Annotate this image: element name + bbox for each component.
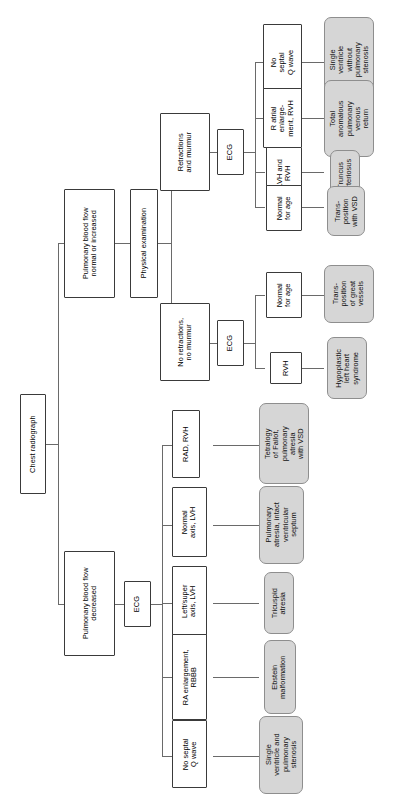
connector-upper-to-exam bbox=[115, 243, 130, 244]
terminal-label: Hypoplastic left heart syndrome bbox=[335, 349, 360, 388]
node-pulmonary-blood-flow-decreased[interactable]: Pulmonary blood flow decreased bbox=[64, 551, 115, 656]
node-ecg-result-normal-for-age-1[interactable]: Normal for age bbox=[266, 185, 302, 231]
node-label: R atrial enlarge- ment, RVH bbox=[270, 100, 295, 136]
node-label: ECG bbox=[133, 596, 141, 612]
connector-ecg1-out bbox=[244, 152, 255, 153]
connector-res-u5-term bbox=[302, 295, 324, 296]
flowchart-canvas: Chest radiograph Pulmonary blood flow no… bbox=[0, 0, 399, 807]
terminal-label: Ebstein malformation bbox=[272, 655, 289, 698]
node-pulmonary-blood-flow-normal[interactable]: Pulmonary blood flow normal or increased bbox=[64, 189, 115, 298]
node-label: No retractions, no murmur bbox=[177, 318, 194, 367]
node-ecg-upper-1[interactable]: ECG bbox=[217, 129, 244, 175]
terminal-label: Total anomalous pulmonary venous return bbox=[328, 100, 369, 137]
connector-ecg3-r5 bbox=[162, 756, 172, 757]
connector-ecg2-r2 bbox=[255, 368, 265, 369]
node-label: Pulmonary blood flow decreased bbox=[81, 568, 98, 640]
node-chest-radiograph[interactable]: Chest radiograph bbox=[20, 394, 46, 494]
terminal-hypoplastic-left-heart-syndrome[interactable]: Hypoplastic left heart syndrome bbox=[327, 337, 367, 399]
terminal-tetralogy-of-fallot-pulmonary-atresia-with-vsd[interactable]: Tetralogy of Fallot, pulmonary atresia w… bbox=[259, 403, 309, 484]
node-label: Normal axis, LVH bbox=[181, 506, 198, 538]
connector-ecg2-spine bbox=[255, 295, 256, 368]
connector-exam-out bbox=[158, 243, 171, 244]
node-physical-examination[interactable]: Physical examination bbox=[130, 189, 158, 298]
connector-res-l2-term bbox=[213, 525, 259, 526]
terminal-label: Trans- position with VSD bbox=[334, 196, 359, 227]
terminal-pulmonary-atresia-intact-ventricular-septum[interactable]: Pulmonary atresia, intact ventricular se… bbox=[259, 486, 304, 564]
connector-res-u1-term bbox=[302, 62, 324, 63]
connector-ecg1-r4 bbox=[255, 207, 265, 208]
node-label: ECG bbox=[226, 144, 234, 160]
connector-ecg2-out bbox=[244, 343, 255, 344]
terminal-label: Tricuspid atresia bbox=[271, 588, 288, 618]
node-ecg-result-rvh[interactable]: RVH bbox=[270, 352, 302, 384]
connector-ecg2-r1 bbox=[255, 295, 265, 296]
node-label: No septal Q wave bbox=[181, 738, 198, 770]
node-label: Retractions and murmur bbox=[177, 132, 194, 172]
connector-ecg3-out bbox=[151, 604, 162, 605]
node-retractions-and-murmur[interactable]: Retractions and murmur bbox=[160, 113, 210, 191]
connector-res-u4-term bbox=[302, 207, 324, 208]
terminal-label: Pulmonary atresia, intact ventricular se… bbox=[265, 503, 298, 548]
connector-res-l3-term bbox=[213, 603, 259, 604]
node-label: Normal for age bbox=[276, 196, 293, 220]
node-ecg-result-rad-rvh[interactable]: RAD, RVH bbox=[172, 410, 200, 478]
terminal-ebstein-malformation[interactable]: Ebstein malformation bbox=[264, 640, 296, 714]
node-ecg-result-no-septal-q-wave-lower[interactable]: No septal Q wave bbox=[172, 720, 207, 788]
connector-ecg3-r3 bbox=[162, 603, 172, 604]
connector-res-l4-term bbox=[213, 677, 259, 678]
terminal-label: Single ventricle without pulmonary steno… bbox=[328, 43, 369, 78]
terminal-transposition-of-great-vessels[interactable]: Trans- position of great vessels bbox=[324, 265, 374, 323]
node-ecg-result-normal-axis-lvh[interactable]: Normal axis, LVH bbox=[172, 487, 207, 557]
terminal-label: Tetralogy of Fallot, pulmonary atresia w… bbox=[263, 426, 304, 461]
node-label: LVH and RVH bbox=[276, 159, 293, 188]
terminal-transposition-with-vsd[interactable]: Trans- position with VSD bbox=[327, 186, 365, 236]
node-label: Chest radiograph bbox=[29, 415, 37, 473]
terminal-tricuspid-atresia[interactable]: Tricuspid atresia bbox=[264, 572, 294, 634]
node-ecg-result-left-super-axis-lvh[interactable]: Left/super axis, LVH bbox=[172, 566, 207, 636]
node-ecg-lower[interactable]: ECG bbox=[124, 581, 151, 627]
node-label: Left/super axis, LVH bbox=[181, 584, 198, 617]
connector-ecg1-spine bbox=[255, 62, 256, 207]
node-ecg-result-ra-enlargement-rbbb[interactable]: RA enlargement, RBBB bbox=[172, 634, 207, 720]
connector-res-u3-term bbox=[302, 172, 324, 173]
connector-ecg3-r4 bbox=[162, 677, 172, 678]
connector-ecg3-r2 bbox=[162, 525, 172, 526]
connector-main-spine bbox=[58, 243, 59, 604]
node-ecg-result-normal-for-age-2[interactable]: Normal for age bbox=[266, 272, 302, 318]
connector-ecg1-r3 bbox=[255, 172, 265, 173]
connector-ecg3-r1 bbox=[162, 445, 172, 446]
connector-res-u2-term bbox=[302, 118, 324, 119]
node-label: ECG bbox=[226, 335, 234, 351]
connector-res-l1-term bbox=[213, 445, 259, 446]
connector-res-l5-term bbox=[213, 756, 259, 757]
node-no-retractions-no-murmur[interactable]: No retractions, no murmur bbox=[160, 303, 210, 381]
node-label: Normal for age bbox=[276, 283, 293, 307]
node-label: RAD, RVH bbox=[182, 426, 190, 462]
node-label: RA enlargement, RBBB bbox=[181, 649, 198, 705]
node-ecg-result-r-atrial-enlargement-rvh[interactable]: R atrial enlarge- ment, RVH bbox=[263, 88, 302, 148]
connector-ecg3-spine bbox=[162, 445, 163, 756]
terminal-label: Single ventricle and pulmonary stenosis bbox=[264, 734, 297, 777]
node-label: Physical examination bbox=[140, 208, 148, 278]
node-label: Pulmonary blood flow normal or increased bbox=[81, 208, 98, 280]
node-label: No septal Q wave bbox=[270, 49, 295, 74]
connector-root-out bbox=[46, 444, 58, 445]
terminal-total-anomalous-pulmonary-venous-return[interactable]: Total anomalous pulmonary venous return bbox=[324, 80, 374, 157]
terminal-label: Trans- position of great vessels bbox=[332, 281, 365, 307]
terminal-single-ventricle-and-pulmonary-stenosis[interactable]: Single ventricle and pulmonary stenosis bbox=[259, 716, 303, 794]
connector-res-u6-term bbox=[302, 368, 324, 369]
node-ecg-upper-2[interactable]: ECG bbox=[217, 320, 244, 366]
node-label: RVH bbox=[282, 360, 290, 376]
